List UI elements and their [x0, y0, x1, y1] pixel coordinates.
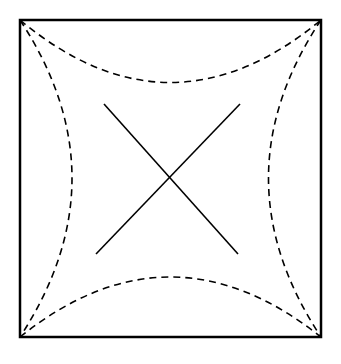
left-arc: [20, 20, 72, 337]
top-arc: [20, 20, 321, 83]
cross-diagonals-group: [96, 104, 240, 254]
astroid-diagram: [0, 0, 341, 364]
right-arc: [269, 20, 322, 337]
diagram-canvas: [0, 0, 341, 364]
bottom-arc: [20, 277, 321, 337]
